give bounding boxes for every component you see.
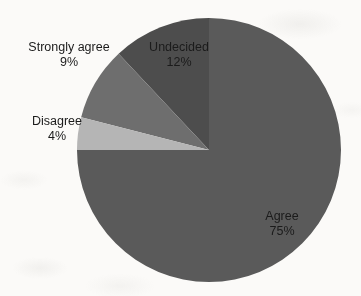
slice-label-agree: Agree 75%: [247, 209, 317, 239]
slice-label-undecided-value: 12%: [133, 55, 225, 70]
pie-chart: Strongly agree 9% Undecided 12% Disagree…: [0, 0, 361, 296]
slice-label-undecided-name: Undecided: [133, 40, 225, 55]
slice-label-agree-name: Agree: [247, 209, 317, 224]
slice-label-agree-value: 75%: [247, 224, 317, 239]
slice-label-disagree: Disagree 4%: [11, 114, 103, 144]
slice-label-disagree-name: Disagree: [11, 114, 103, 129]
slice-label-strongly-agree-value: 9%: [8, 55, 130, 70]
slice-label-disagree-value: 4%: [11, 129, 103, 144]
slice-label-strongly-agree: Strongly agree 9%: [8, 40, 130, 70]
slice-label-undecided: Undecided 12%: [133, 40, 225, 70]
slice-label-strongly-agree-name: Strongly agree: [8, 40, 130, 55]
